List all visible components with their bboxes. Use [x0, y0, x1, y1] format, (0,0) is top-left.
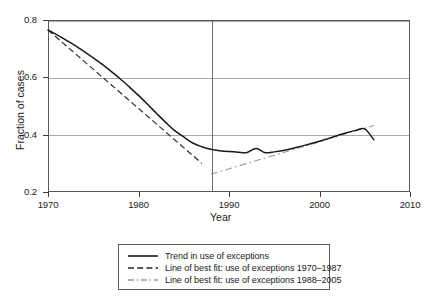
x-tick-mark	[229, 192, 230, 197]
legend-label: Trend in use of exceptions	[165, 251, 269, 261]
legend: Trend in use of exceptions Line of best …	[118, 244, 330, 290]
x-tick-label: 2010	[390, 199, 430, 210]
legend-row: Trend in use of exceptions	[128, 250, 329, 262]
y-tick-label: 0.4	[7, 129, 37, 140]
legend-label: Line of best fit: use of exceptions 1970…	[165, 263, 341, 273]
legend-label: Line of best fit: use of exceptions 1988…	[165, 275, 341, 285]
dash-dot-line-key	[128, 275, 158, 285]
vertical-reference-line-1988	[212, 21, 213, 191]
x-tick-label: 1990	[209, 199, 249, 210]
y-tick-label: 0.2	[7, 186, 37, 197]
legend-row: Line of best fit: use of exceptions 1970…	[128, 262, 329, 274]
solid-line-key	[128, 251, 158, 261]
y-tick-label: 0.8	[7, 14, 37, 25]
gridline-0.8	[49, 21, 409, 22]
x-tick-label: 1980	[119, 199, 159, 210]
y-tick-mark	[43, 20, 48, 21]
dashed-line-key	[128, 263, 158, 273]
gridline-0.6	[49, 78, 409, 79]
plot-area	[48, 20, 410, 192]
x-tick-mark	[48, 192, 49, 197]
y-tick-label: 0.6	[7, 71, 37, 82]
x-tick-label: 2000	[300, 199, 340, 210]
x-tick-mark	[410, 192, 411, 197]
y-tick-mark	[43, 135, 48, 136]
x-axis-title: Year	[210, 211, 231, 223]
chart-figure: Fraction of cases 0.20.40.60.81970198019…	[0, 0, 432, 308]
x-tick-mark	[139, 192, 140, 197]
gridline-0.4	[49, 135, 409, 136]
x-tick-label: 1970	[28, 199, 68, 210]
y-tick-mark	[43, 77, 48, 78]
legend-row: Line of best fit: use of exceptions 1988…	[128, 274, 329, 286]
x-tick-mark	[320, 192, 321, 197]
